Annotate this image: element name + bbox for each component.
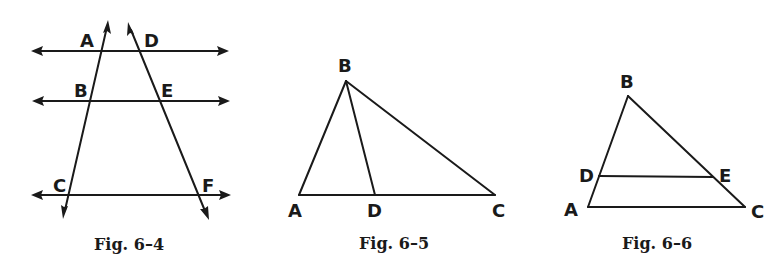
point-label-c: C — [751, 201, 764, 222]
segment-de — [599, 176, 713, 177]
point-label-d: D — [367, 200, 382, 221]
segment-bd — [346, 81, 375, 195]
segment-ab — [588, 96, 628, 207]
figure-6-5: B A D C Fig. 6–5 — [288, 55, 505, 253]
figure-6-4: A D B E C F Fig. 6–4 — [31, 20, 231, 254]
segment-bc — [628, 96, 745, 207]
point-label-a: A — [288, 200, 302, 221]
point-label-c: C — [53, 175, 66, 196]
segment-bc — [346, 81, 495, 195]
figure-6-6: B D E A C Fig. 6–6 — [564, 71, 764, 253]
point-label-d: D — [144, 30, 159, 51]
point-label-e: E — [719, 165, 731, 186]
figure-caption: Fig. 6–6 — [622, 234, 692, 253]
point-label-a: A — [564, 199, 578, 220]
triangle-abc — [588, 96, 745, 207]
arrow-up-icon — [103, 20, 111, 34]
point-label-b: B — [620, 71, 634, 92]
point-label-a: A — [80, 30, 94, 51]
diagram-canvas: A D B E C F Fig. 6–4 B A D C Fig. 6–5 B … — [0, 0, 783, 265]
point-label-d: D — [579, 165, 594, 186]
segment-ab — [299, 81, 346, 195]
parallel-line-middle — [32, 96, 230, 106]
point-label-f: F — [202, 175, 214, 196]
figure-caption: Fig. 6–4 — [94, 235, 164, 254]
point-label-c: C — [492, 200, 505, 221]
arrow-down-icon — [61, 205, 68, 219]
triangle-abc — [299, 81, 495, 195]
point-label-b: B — [338, 55, 352, 76]
parallel-line-top — [31, 46, 229, 56]
figure-caption: Fig. 6–5 — [359, 234, 429, 253]
point-label-b: B — [74, 80, 88, 101]
point-label-e: E — [161, 80, 173, 101]
